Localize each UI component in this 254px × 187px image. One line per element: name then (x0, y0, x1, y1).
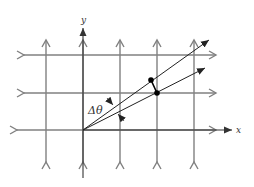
horizontal-grid-lines (17, 55, 216, 130)
x-axis-label: x (236, 125, 241, 135)
angle-indicator (107, 98, 124, 121)
lower-ray (83, 68, 205, 130)
angle-arrow-lower (118, 114, 124, 121)
point-lower (154, 90, 160, 96)
polar-grid-diagram: y x Δθ (0, 0, 254, 187)
delta-theta-label: Δθ (87, 104, 103, 117)
vertical-grid-lines (46, 40, 194, 162)
point-upper (148, 77, 154, 83)
y-axis-label: y (80, 15, 87, 25)
angle-arrow-upper (107, 98, 113, 105)
